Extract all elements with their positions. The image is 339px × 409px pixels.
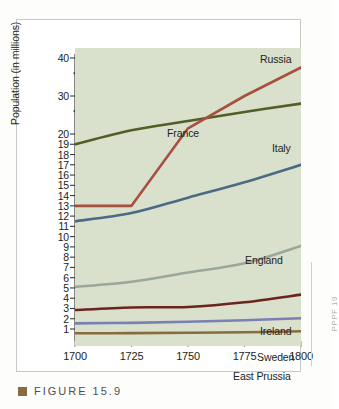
y-tick-14: 14 (39, 191, 69, 201)
y-tick-19: 19 (39, 139, 69, 149)
y-tick-15: 15 (39, 180, 69, 190)
y-tick-18: 18 (39, 150, 69, 160)
y-tick-8: 8 (39, 252, 69, 262)
y-tick-16: 16 (39, 170, 69, 180)
y-tick-40: 40 (39, 53, 69, 63)
y-tick-13: 13 (39, 201, 69, 211)
series-label-sweden: Sweden (257, 351, 294, 363)
caption-label: FIGURE 15.9 (34, 385, 122, 397)
y-tick-3: 3 (39, 303, 69, 313)
series-label-russia: Russia (260, 53, 292, 65)
chart-card: Population (in millions) 123456789101112… (16, 19, 301, 372)
series-label-ireland: Ireland (260, 325, 291, 337)
series-lines (75, 48, 301, 346)
y-tick-30: 30 (39, 91, 69, 101)
y-tick-6: 6 (39, 273, 69, 283)
y-tick-11: 11 (39, 221, 69, 231)
x-tick-1750: 1750 (166, 350, 210, 362)
y-tick-1: 1 (39, 324, 69, 334)
plot-area (75, 48, 301, 346)
y-tick-9: 9 (39, 242, 69, 252)
caption-bullet-icon (18, 387, 27, 396)
x-tick-1700: 1700 (53, 350, 97, 362)
figure-caption: FIGURE 15.9 (18, 385, 122, 397)
y-tick-20: 20 (39, 129, 69, 139)
y-tick-2: 2 (39, 314, 69, 324)
y-tick-4: 4 (39, 293, 69, 303)
y-tick-10: 10 (39, 232, 69, 242)
series-label-england: England (245, 254, 283, 266)
y-tick-7: 7 (39, 262, 69, 272)
margin-note-text: PPPF 19 (330, 296, 339, 332)
y-tick-5: 5 (39, 283, 69, 293)
series-label-east-prussia: East Prussia (233, 370, 291, 382)
y-axis-title: Population (in millions) (9, 0, 21, 125)
page-margin-rule (311, 262, 312, 366)
series-label-italy: Italy (272, 142, 291, 154)
y-tick-17: 17 (39, 160, 69, 170)
series-label-france: France (167, 127, 199, 139)
y-tick-12: 12 (39, 211, 69, 221)
x-tick-1725: 1725 (110, 350, 154, 362)
